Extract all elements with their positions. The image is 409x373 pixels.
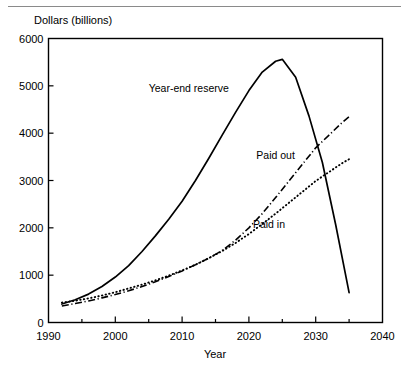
series-lines-group [62,59,349,306]
x-tick-label: 2010 [170,330,194,342]
series-label-paid-out: Paid out [256,149,295,161]
y-axis-tick-labels: 0100020003000400050006000 [19,33,43,329]
y-tick-label: 4000 [19,127,43,139]
x-tick-label: 2020 [237,330,261,342]
x-axis-title: Year [204,348,227,360]
x-axis-tick-labels: 199020002010202020302040 [36,330,394,342]
y-axis-ticks [49,86,54,275]
y-tick-label: 0 [37,317,43,329]
series-label-year-end-reserve: Year-end reserve [149,82,229,94]
x-axis-ticks [82,317,349,323]
y-tick-label: 2000 [19,222,43,234]
series-line-paid-out [62,117,349,306]
x-tick-label: 1990 [36,330,60,342]
y-tick-label: 3000 [19,175,43,187]
series-line-year-end-reserve [62,59,349,304]
series-label-paid-in: Paid in [253,218,285,230]
x-tick-label: 2040 [370,330,394,342]
line-chart: 0100020003000400050006000 19902000201020… [0,0,409,373]
figure-container: Dollars (billions) 010002000300040005000… [0,0,409,373]
series-line-paid-in [62,159,349,302]
y-tick-label: 6000 [19,33,43,45]
y-tick-label: 1000 [19,269,43,281]
y-tick-label: 5000 [19,80,43,92]
x-tick-label: 2030 [303,330,327,342]
series-annotation-labels: Year-end reservePaid outPaid in [149,82,295,231]
x-tick-label: 2000 [103,330,127,342]
